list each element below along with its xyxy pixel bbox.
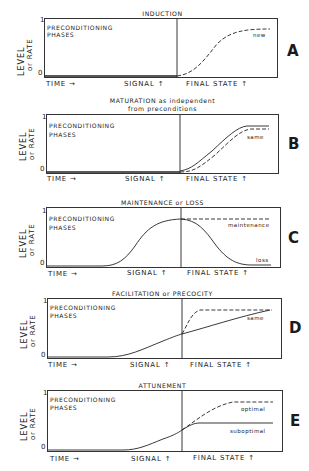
preconditioning-label: PRECONDITIONING	[50, 396, 116, 403]
panel-title: ATTUNEMENT	[46, 382, 279, 389]
curve-label-suboptimal: suboptimal	[230, 428, 266, 434]
x-label-final-state: FINAL STATE ↑	[193, 454, 255, 462]
preconditioning-label-2: PHASES	[50, 404, 77, 411]
y-axis-label: LEVEL	[20, 412, 29, 442]
curve-label-optimal: optimal	[241, 406, 265, 412]
curve-preconditioning	[48, 430, 182, 450]
panel-attunement: ATTUNEMENT LEVEL or RATE 1 0 PRECONDITIO…	[0, 0, 309, 471]
y-axis-label-sub: or RATE	[29, 407, 37, 440]
x-label-time: TIME →	[50, 455, 80, 463]
plot-area: PRECONDITIONING PHASES optimal suboptima…	[47, 390, 283, 452]
x-label-signal: SIGNAL ↑	[131, 455, 171, 463]
panel-letter: E	[290, 414, 300, 429]
y-tick-0: 0	[41, 444, 45, 451]
